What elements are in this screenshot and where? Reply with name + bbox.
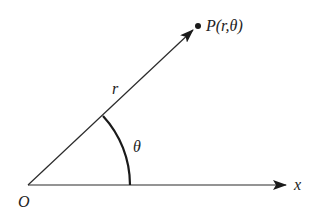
radius-label: r [112,80,119,97]
x-axis-label: x [293,176,301,193]
angle-arc [103,116,130,185]
origin-label: O [18,193,30,210]
angle-label: θ [133,138,141,155]
radius-ray [28,30,193,185]
point-p-dot [195,23,201,29]
polar-diagram: P(r,θ) r θ O x [0,0,316,216]
point-p-label: P(r,θ) [205,17,243,35]
